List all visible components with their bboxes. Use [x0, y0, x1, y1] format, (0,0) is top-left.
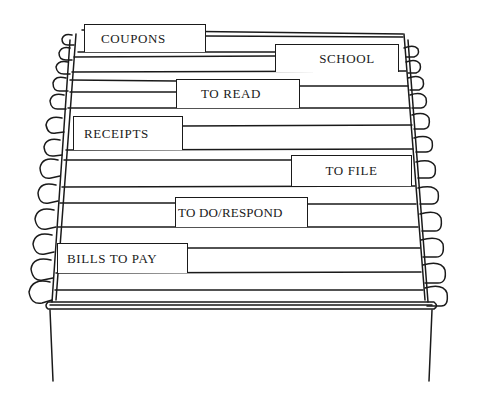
tab-to-read[interactable]: TO READ	[176, 79, 300, 108]
tab-bills-to-pay[interactable]: BILLS TO PAY	[57, 243, 188, 273]
tab-label: SCHOOL	[319, 51, 375, 67]
tab-receipts[interactable]: RECEIPTS	[73, 116, 183, 150]
tab-label: TO READ	[201, 86, 261, 102]
tab-label: BILLS TO PAY	[67, 251, 157, 267]
box-sides	[50, 310, 432, 381]
tab-label: TO FILE	[326, 163, 378, 179]
tab-to-file[interactable]: TO FILE	[291, 155, 412, 186]
tab-label: TO DO/RESPOND	[178, 205, 283, 221]
box-rim	[46, 302, 437, 309]
tab-school[interactable]: SCHOOL	[275, 44, 399, 72]
tab-label: RECEIPTS	[84, 126, 149, 142]
tab-label: COUPONS	[101, 31, 166, 47]
tab-to-do-respond[interactable]: TO DO/RESPOND	[175, 197, 308, 227]
file-box-illustration: COUPONS SCHOOL TO READ RECEIPTS TO FILE …	[0, 0, 485, 404]
tab-coupons[interactable]: COUPONS	[84, 24, 206, 52]
